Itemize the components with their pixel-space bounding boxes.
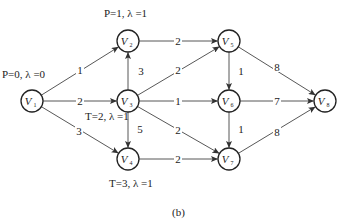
- node-subscript: 1: [34, 102, 37, 108]
- node-subscript: 2: [130, 42, 133, 48]
- edge-weight: 8: [274, 61, 280, 73]
- edge-weight: 1: [175, 95, 181, 107]
- edge-weight: 2: [77, 95, 83, 107]
- annotation-v4: T=3, λ =1: [109, 177, 153, 189]
- node-subscript: 3: [130, 102, 133, 108]
- edge-weight: 5: [137, 123, 143, 135]
- node-v2: V2: [117, 30, 139, 52]
- annotation-v3: T=2, λ =1: [85, 110, 129, 122]
- node-v6: V6: [218, 90, 240, 112]
- edge-weight: 7: [274, 95, 280, 107]
- edge-weight: 1: [238, 123, 244, 135]
- edge-weight: 2: [175, 153, 181, 165]
- edge-weight: 1: [77, 64, 83, 76]
- edge-weight: 2: [175, 124, 181, 136]
- node-v3: V3: [117, 90, 139, 112]
- node-subscript: 8: [327, 102, 330, 108]
- edge-weight: 1: [238, 65, 244, 77]
- figure-caption: (b): [172, 206, 185, 219]
- node-subscript: 6: [231, 102, 234, 108]
- node-v7: V7: [218, 148, 240, 170]
- node-subscript: 7: [231, 160, 234, 166]
- node-v5: V5: [218, 30, 240, 52]
- node-v8: V8: [314, 90, 336, 112]
- edge-weight: 2: [175, 35, 181, 47]
- node-v1: V1: [21, 90, 43, 112]
- annotation-v1: P=0, λ =0: [2, 68, 46, 80]
- annotation-v2: P=1, λ =1: [104, 7, 147, 19]
- shortest-path-graph: 123352212211878 V1V2V3V4V5V6V7V8 P=0, λ …: [0, 0, 350, 223]
- edge-weight: 8: [274, 126, 280, 138]
- node-subscript: 4: [130, 160, 133, 166]
- edge-weight: 2: [175, 64, 181, 76]
- node-subscript: 5: [231, 42, 234, 48]
- node-v4: V4: [117, 148, 139, 170]
- edge-weight: 3: [138, 65, 144, 77]
- edge-weight: 3: [76, 125, 82, 137]
